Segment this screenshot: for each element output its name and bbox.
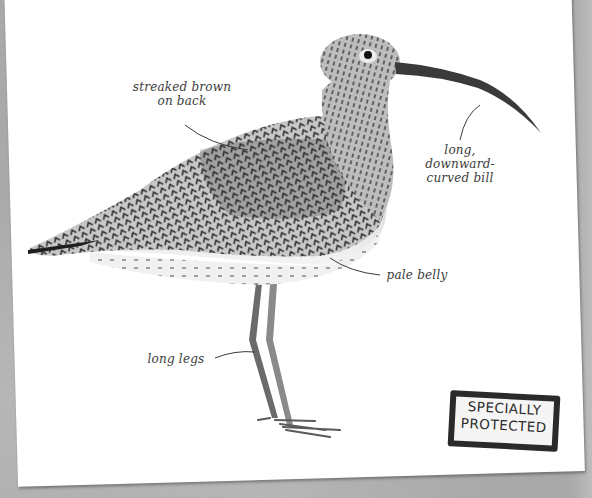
annotation-bill-line3: curved bill	[410, 171, 510, 185]
annotation-bill: long, downward- curved bill	[410, 143, 510, 185]
stamp-text: SPECIALLY PROTECTED	[454, 397, 554, 436]
annotation-back-line2: on back	[127, 94, 237, 108]
annotation-belly-line1: pale belly	[382, 268, 452, 282]
annotation-bill-line1: long,	[410, 143, 510, 157]
annotation-back-line1: streaked brown	[127, 80, 237, 94]
bill	[395, 62, 541, 133]
annotation-legs: long legs	[143, 352, 209, 366]
annotation-back: streaked brown on back	[127, 80, 237, 108]
legs	[249, 283, 340, 437]
annotation-legs-line1: long legs	[143, 352, 209, 366]
eye	[364, 51, 372, 59]
annotation-belly: pale belly	[382, 268, 452, 282]
head	[320, 34, 400, 90]
specially-protected-stamp: SPECIALLY PROTECTED	[448, 390, 561, 452]
annotation-bill-line2: downward-	[410, 157, 510, 171]
